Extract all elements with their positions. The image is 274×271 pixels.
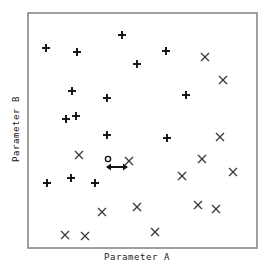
plot-canvas	[0, 0, 274, 271]
y-axis-label: Parameter B	[11, 69, 21, 189]
figure-background	[0, 0, 274, 271]
x-axis-label: Parameter A	[0, 252, 274, 262]
scatter-plot-figure: Parameter A Parameter B	[0, 0, 274, 271]
